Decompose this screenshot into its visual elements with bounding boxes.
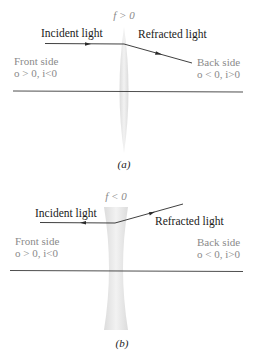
incident-ray-b — [40, 223, 115, 224]
front-side-label-b: Front side — [15, 235, 59, 247]
back-side-label-a: Back side — [197, 56, 240, 68]
panel-b: f < 0 Incident light Refracted light Fro… — [10, 190, 243, 350]
incident-ray-a — [45, 44, 124, 45]
incident-label-b: Incident light — [35, 207, 97, 220]
incident-arrow-icon-a — [85, 42, 91, 46]
incident-label-a: Incident light — [41, 27, 103, 40]
refracted-label-b: Refracted light — [155, 215, 224, 228]
focal-label-a: f > 0 — [113, 9, 135, 21]
back-side-signs-b: o < 0, i>0 — [197, 248, 240, 260]
caption-b: (b) — [116, 337, 129, 350]
front-side-label-a: Front side — [14, 55, 58, 67]
refracted-label-a: Refracted light — [138, 28, 207, 41]
diverging-lens-icon — [104, 207, 128, 330]
incident-arrow-icon-b — [80, 221, 86, 225]
focal-label-b: f < 0 — [105, 190, 127, 202]
lens-sign-convention-diagram: f > 0 Incident light Refracted light Fro… — [0, 0, 253, 360]
converging-lens-icon — [120, 27, 129, 153]
optical-axis-b — [10, 271, 243, 272]
back-side-label-b: Back side — [197, 236, 240, 248]
optical-axis-a — [13, 91, 243, 92]
panel-a: f > 0 Incident light Refracted light Fro… — [13, 9, 243, 171]
front-side-signs-b: o > 0, i<0 — [15, 247, 58, 259]
caption-a: (a) — [118, 158, 131, 171]
back-side-signs-a: o < 0, i>0 — [197, 68, 240, 80]
refracted-arrow-icon-a — [155, 51, 162, 55]
front-side-signs-a: o > 0, i<0 — [14, 67, 57, 79]
